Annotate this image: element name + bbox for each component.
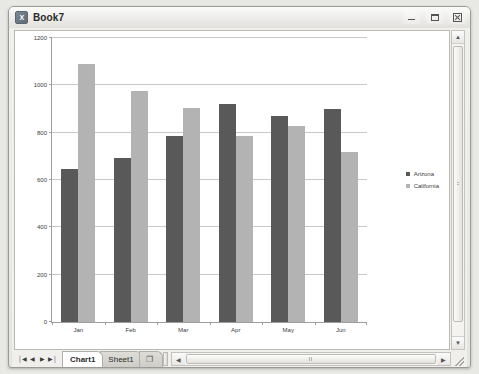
x-axis-tick [366,322,367,325]
horizontal-scrollbar[interactable]: ◀ ▶ [171,352,451,366]
bar-arizona-feb[interactable] [114,158,131,322]
x-axis-tick-label: May [262,327,315,333]
y-axis-tick-label: 400 [37,224,47,230]
bar-california-mar[interactable] [183,108,200,322]
legend-label: California [414,183,439,189]
x-axis-tick-label: Apr [210,327,263,333]
bar-california-apr[interactable] [236,136,253,322]
category-group-mar: Mar [157,38,210,322]
bar-california-jun[interactable] [341,152,358,322]
legend-swatch-icon [406,172,410,176]
close-icon[interactable] [449,10,466,24]
vertical-scroll-track[interactable] [452,44,464,336]
bar-california-jan[interactable] [78,64,95,322]
category-group-may: May [262,38,315,322]
scroll-up-icon[interactable]: ▲ [452,31,464,44]
resize-grip[interactable] [453,351,465,367]
category-group-jan: Jan [52,38,105,322]
tab-nav-first-icon[interactable]: │◀ [18,353,27,365]
legend-label: Arizona [414,171,434,177]
x-axis-tick-label: Jun [315,327,368,333]
x-axis-tick [315,322,316,325]
chart-legend[interactable]: ArizonaCalifornia [406,171,439,189]
bar-arizona-jan[interactable] [61,169,78,322]
x-axis-tick [157,322,158,325]
excel-window: X Book7 020040060080010001200 JanFebMarA… [8,6,471,368]
title-bar[interactable]: X Book7 [9,7,470,28]
sheet-tab-sheet1[interactable]: Sheet1 [100,351,141,367]
scroll-left-icon[interactable]: ◀ [172,353,185,365]
window-controls [403,10,466,24]
sheet-tab-chart1[interactable]: Chart1 [62,351,103,367]
vertical-scrollbar[interactable]: ▲ ▼ [451,30,465,350]
y-axis-tick-label: 1200 [34,35,47,41]
tab-nav-last-icon[interactable]: ▶│ [48,353,57,365]
x-axis-tick-label: Jan [52,327,105,333]
tab-nav-prev-icon[interactable]: ◀ [28,353,37,365]
vertical-scroll-thumb[interactable] [453,46,463,322]
sheet-tabs: Chart1Sheet1❐ [62,351,160,367]
y-axis-tick-label: 800 [37,130,47,136]
bar-arizona-jun[interactable] [324,109,341,322]
chart-area[interactable]: 020040060080010001200 JanFebMarAprMayJun… [15,31,449,349]
x-axis-tick [105,322,106,325]
plot-area[interactable]: 020040060080010001200 JanFebMarAprMayJun [51,38,367,323]
scroll-down-icon[interactable]: ▼ [452,336,464,349]
x-axis-tick [262,322,263,325]
bar-california-may[interactable] [288,126,305,322]
category-group-jun: Jun [315,38,368,322]
horizontal-scroll-thumb[interactable] [186,354,436,364]
minimize-button[interactable] [403,10,420,24]
legend-item-california[interactable]: California [406,183,439,189]
y-axis-tick-label: 1000 [34,82,47,88]
x-axis-tick [210,322,211,325]
bar-california-feb[interactable] [131,91,148,322]
category-group-apr: Apr [210,38,263,322]
y-axis-tick-label: 200 [37,272,47,278]
window-title: Book7 [33,12,64,23]
new-sheet-icon[interactable]: ❐ [139,351,163,367]
x-axis-tick-label: Feb [105,327,158,333]
excel-icon: X [15,11,28,24]
bars-layer: JanFebMarAprMayJun [52,38,367,322]
document-row: 020040060080010001200 JanFebMarAprMayJun… [12,28,467,350]
y-axis-tick-label: 0 [44,319,47,325]
tab-nav-next-icon[interactable]: ▶ [38,353,47,365]
category-group-feb: Feb [105,38,158,322]
y-axis-tick-label: 600 [37,177,47,183]
bar-arizona-apr[interactable] [219,104,236,322]
workbook-client-area: 020040060080010001200 JanFebMarAprMayJun… [12,28,467,367]
legend-item-arizona[interactable]: Arizona [406,171,439,177]
bar-arizona-mar[interactable] [166,136,183,322]
bar-arizona-may[interactable] [271,116,288,322]
legend-swatch-icon [406,184,410,188]
scroll-right-icon[interactable]: ▶ [437,353,450,365]
horizontal-scroll-track[interactable] [185,353,437,365]
x-axis-tick-label: Mar [157,327,210,333]
x-axis-tick [52,322,53,325]
tab-nav-buttons: │◀ ◀ ▶ ▶│ [15,351,60,367]
tab-split-handle[interactable] [163,352,168,366]
maximize-button[interactable] [426,10,443,24]
chart-sheet[interactable]: 020040060080010001200 JanFebMarAprMayJun… [14,30,450,350]
sheet-tab-bar: │◀ ◀ ▶ ▶│ Chart1Sheet1❐ ◀ ▶ [12,350,467,367]
